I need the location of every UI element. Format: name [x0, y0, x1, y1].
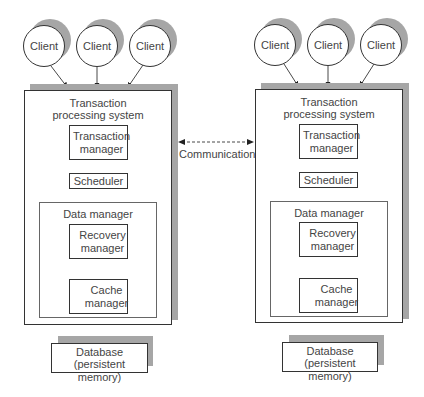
cache-manager-label: Cache manager: [70, 280, 143, 313]
tps-title-line2: processing system: [25, 109, 171, 122]
client-node: Client: [23, 25, 65, 67]
client-label: Client: [83, 40, 111, 52]
client-node: Client: [360, 24, 402, 66]
client-label: Client: [314, 39, 342, 51]
client-node: Client: [129, 25, 171, 67]
recovery-manager-label: Recovery manager: [70, 225, 135, 258]
transaction-manager-label: Transaction manager: [70, 126, 133, 159]
client-label: Client: [136, 40, 164, 52]
database-box-right: Database (persistent memory): [282, 342, 378, 372]
database-sublabel: (persistent memory): [52, 358, 147, 383]
transaction-manager-label: Transaction manager: [300, 125, 363, 158]
communication-label: Communication: [179, 148, 255, 160]
tps-title-line1: Transaction: [25, 97, 171, 110]
client-label: Client: [367, 39, 395, 51]
database-sublabel: (persistent memory): [283, 357, 377, 382]
client-node: Client: [254, 24, 296, 66]
recovery-manager-box: Recovery manager: [299, 222, 358, 257]
cache-manager-box: Cache manager: [299, 278, 358, 313]
data-manager-title: Data manager: [271, 207, 387, 220]
transaction-manager-box: Transaction manager: [299, 124, 358, 159]
client-node: Client: [307, 24, 349, 66]
transaction-manager-box: Transaction manager: [69, 125, 128, 160]
tps-title-line2: processing system: [256, 108, 402, 121]
scheduler-box: Scheduler: [299, 172, 358, 188]
scheduler-label: Scheduler: [300, 173, 357, 187]
scheduler-box: Scheduler: [69, 173, 128, 189]
tps-title-line1: Transaction: [256, 96, 402, 109]
scheduler-label: Scheduler: [70, 174, 127, 188]
database-box-left: Database (persistent memory): [51, 343, 148, 373]
recovery-manager-label: Recovery manager: [300, 223, 365, 256]
client-label: Client: [261, 39, 289, 51]
data-manager-title: Data manager: [40, 208, 156, 221]
client-label: Client: [30, 40, 58, 52]
recovery-manager-box: Recovery manager: [69, 224, 128, 259]
database-label: Database: [52, 346, 147, 359]
database-label: Database: [283, 345, 377, 358]
cache-manager-label: Cache manager: [300, 279, 373, 312]
cache-manager-box: Cache manager: [69, 279, 128, 314]
client-node: Client: [76, 25, 118, 67]
